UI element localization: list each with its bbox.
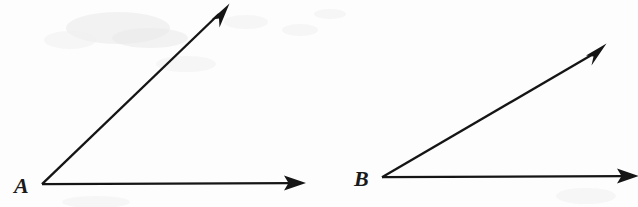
arrowhead-icon bbox=[586, 44, 607, 66]
angle-b: B bbox=[353, 44, 638, 192]
figure-canvas: A B bbox=[0, 0, 638, 207]
geometry-figure: A B bbox=[0, 0, 638, 207]
ray-b-horizontal bbox=[382, 169, 638, 184]
vertex-label-b: B bbox=[353, 166, 369, 191]
ray-b-diagonal bbox=[382, 44, 607, 178]
ray-a-horizontal bbox=[42, 176, 306, 191]
vertex-label-a: A bbox=[12, 173, 29, 198]
